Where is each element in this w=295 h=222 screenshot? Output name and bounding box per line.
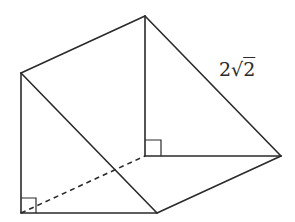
edge-lateral-hidden-dashed [21, 156, 145, 213]
edge-lateral-top [21, 16, 145, 73]
edge-length-label: 2√2 [219, 60, 255, 79]
triangular-prism-diagram [0, 0, 295, 222]
edge-back-hypotenuse [145, 16, 281, 156]
radical-sign: √ [231, 58, 243, 80]
right-angle-marker-back [145, 140, 161, 156]
label-coefficient: 2 [219, 58, 231, 80]
label-radicand: 2 [243, 58, 255, 80]
edge-front-hypotenuse [21, 73, 157, 213]
edge-lateral-right [157, 156, 281, 213]
right-angle-marker-front [21, 198, 36, 213]
